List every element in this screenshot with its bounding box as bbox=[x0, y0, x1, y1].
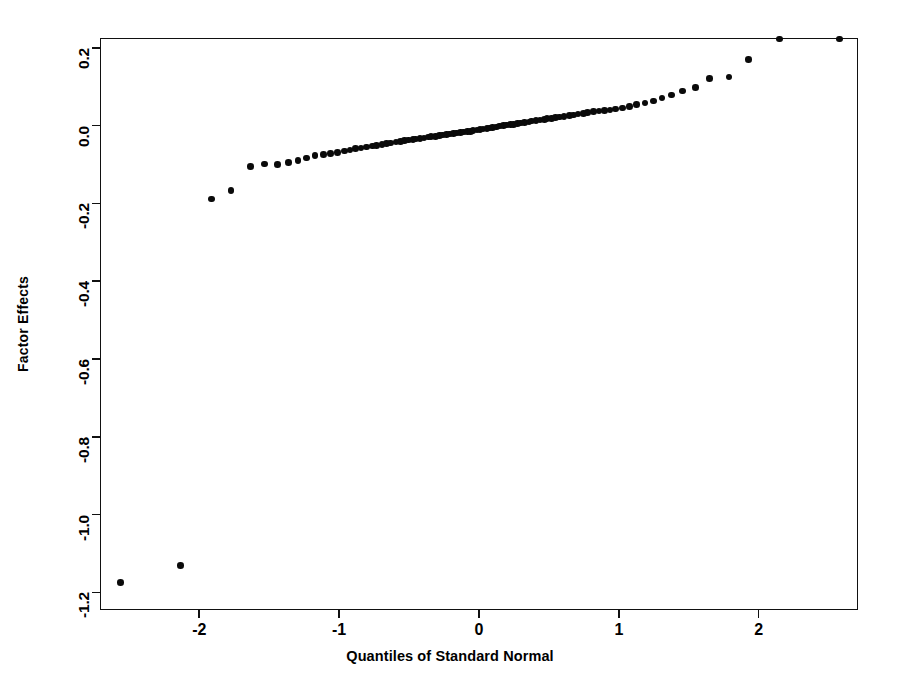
data-point bbox=[274, 161, 281, 168]
data-point bbox=[619, 105, 626, 112]
y-tick-mark bbox=[92, 47, 100, 49]
y-tick-label: -1.2 bbox=[75, 592, 93, 618]
y-axis-title-container: Factor Effects bbox=[0, 0, 46, 697]
data-point bbox=[320, 151, 327, 158]
y-tick-label: -0.4 bbox=[75, 281, 93, 307]
y-tick-mark bbox=[92, 514, 100, 516]
y-tick-label: -0.6 bbox=[75, 359, 93, 385]
data-point bbox=[312, 152, 319, 159]
x-tick-label: 1 bbox=[614, 621, 623, 639]
data-point bbox=[633, 101, 640, 108]
data-point bbox=[177, 562, 184, 569]
x-tick-mark bbox=[198, 610, 200, 618]
x-tick-mark bbox=[618, 610, 620, 618]
data-point bbox=[659, 95, 666, 102]
y-tick-label: 0.0 bbox=[75, 126, 93, 147]
y-tick-label: -1.0 bbox=[75, 515, 93, 541]
data-point bbox=[650, 98, 657, 105]
data-point bbox=[706, 75, 713, 82]
data-point bbox=[745, 56, 752, 63]
y-tick-mark bbox=[92, 203, 100, 205]
y-tick-mark bbox=[92, 358, 100, 360]
data-point bbox=[228, 187, 235, 194]
data-point bbox=[668, 92, 675, 99]
data-point bbox=[692, 84, 699, 91]
data-point bbox=[327, 150, 334, 157]
data-point bbox=[334, 149, 341, 156]
x-tick-label: 0 bbox=[475, 621, 484, 639]
data-point bbox=[285, 159, 292, 166]
x-tick-label: -2 bbox=[192, 621, 206, 639]
x-tick-label: 2 bbox=[754, 621, 763, 639]
y-tick-mark bbox=[92, 125, 100, 127]
y-tick-label: 0.2 bbox=[75, 48, 93, 69]
x-tick-mark bbox=[478, 610, 480, 618]
scatter-series bbox=[101, 39, 857, 609]
y-tick-label: -0.8 bbox=[75, 437, 93, 463]
x-tick-mark bbox=[338, 610, 340, 618]
data-point bbox=[261, 161, 268, 168]
data-point bbox=[836, 36, 843, 43]
data-point bbox=[642, 100, 649, 107]
data-point bbox=[776, 36, 783, 43]
data-point bbox=[303, 155, 310, 162]
data-point bbox=[626, 103, 633, 110]
y-tick-mark bbox=[92, 280, 100, 282]
data-point bbox=[247, 163, 254, 170]
x-tick-mark bbox=[758, 610, 760, 618]
y-tick-label: -0.2 bbox=[75, 203, 93, 229]
data-point bbox=[208, 196, 215, 203]
data-point bbox=[612, 106, 619, 113]
data-point bbox=[726, 74, 733, 81]
data-point bbox=[117, 579, 124, 586]
y-tick-mark bbox=[92, 592, 100, 594]
x-tick-label: -1 bbox=[332, 621, 346, 639]
plot-area bbox=[100, 38, 858, 610]
x-axis-title: Quantiles of Standard Normal bbox=[0, 648, 900, 664]
data-point bbox=[679, 88, 686, 95]
data-point bbox=[295, 157, 302, 164]
qq-plot-figure: Factor Effects 0.20.0-0.2-0.4-0.6-0.8-1.… bbox=[0, 0, 900, 697]
y-axis-title: Factor Effects bbox=[15, 276, 31, 372]
y-tick-mark bbox=[92, 436, 100, 438]
